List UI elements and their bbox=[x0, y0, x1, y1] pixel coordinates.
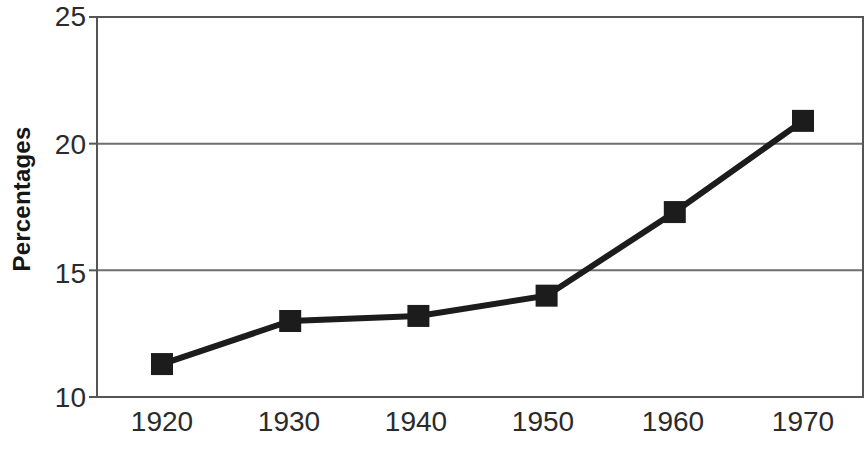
data-point-1960 bbox=[664, 201, 686, 223]
data-line bbox=[162, 121, 803, 364]
line-chart: Percentages 25 20 15 10 1920 1930 1940 1… bbox=[0, 0, 868, 466]
data-point-1920 bbox=[151, 353, 173, 375]
axis-ticks bbox=[89, 17, 97, 397]
data-point-1930 bbox=[279, 310, 301, 332]
data-point-1940 bbox=[407, 305, 429, 327]
plot-frame bbox=[97, 17, 863, 397]
data-point-1970 bbox=[792, 110, 814, 132]
data-point-1950 bbox=[536, 285, 558, 307]
plot-area bbox=[0, 0, 868, 466]
